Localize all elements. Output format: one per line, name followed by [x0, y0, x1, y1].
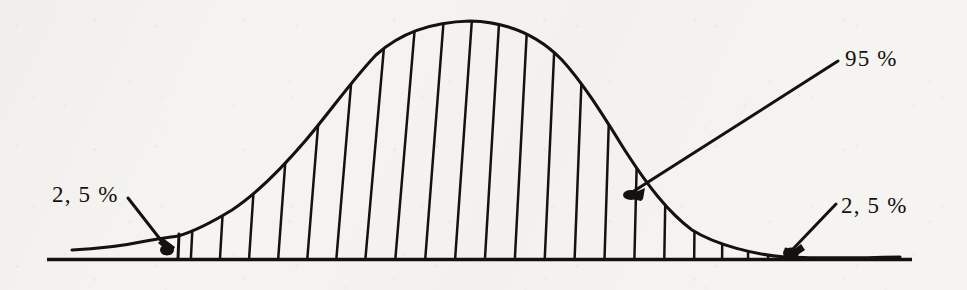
- central-95-hatched-region: [178, 0, 786, 275]
- hatch-line: [454, 0, 474, 275]
- left-percentile-boundary: [178, 234, 179, 259]
- normal-distribution-figure: 2, 5 % 95 % 2, 5 %: [0, 0, 967, 290]
- hatch-line: [248, 0, 267, 275]
- annotation-left-tail: 2, 5 %: [52, 182, 175, 256]
- left-tail-arrow-tip-icon: [160, 245, 174, 256]
- hatch-line: [574, 0, 585, 275]
- hatch-line: [634, 0, 641, 275]
- hatch-line: [604, 0, 613, 275]
- hatch-line: [664, 0, 669, 275]
- hatch-line: [364, 0, 389, 275]
- left-tail-label: 2, 5 %: [52, 182, 119, 207]
- hatch-line: [544, 0, 557, 275]
- hatch-line: [219, 0, 236, 275]
- hatch-line: [335, 0, 359, 275]
- hatch-line: [514, 0, 529, 275]
- annotation-central-95: 95 %: [623, 46, 898, 201]
- hatch-line: [424, 0, 446, 275]
- central-95-arrow-tip-icon: [623, 190, 639, 200]
- right-tail-leader-line: [792, 204, 836, 250]
- hatch-line: [722, 0, 724, 275]
- right-tail-label: 2, 5 %: [841, 193, 908, 218]
- central-95-leader-line: [634, 61, 838, 191]
- hatch-line: [190, 0, 205, 275]
- central-95-label: 95 %: [845, 46, 898, 71]
- hatch-line-group: [190, 0, 769, 275]
- annotation-right-tail: 2, 5 %: [783, 193, 908, 259]
- hatch-line: [277, 0, 298, 275]
- hatch-line: [484, 0, 501, 275]
- hatch-line: [768, 0, 769, 275]
- hatch-line: [394, 0, 418, 275]
- hatch-line: [748, 0, 749, 275]
- figure-canvas: 2, 5 % 95 % 2, 5 %: [0, 0, 967, 290]
- right-tail-arrow-tip-icon: [783, 248, 799, 259]
